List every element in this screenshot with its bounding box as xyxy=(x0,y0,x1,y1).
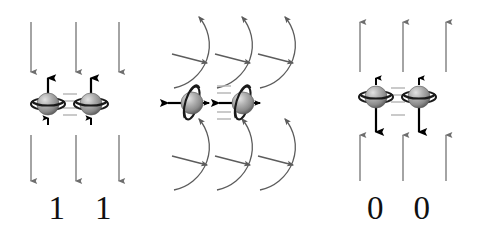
coupling-dashes xyxy=(391,88,405,115)
particle-spin-left-2 xyxy=(219,84,260,121)
particle-spin-down-2 xyxy=(402,78,436,132)
left-particles-layer xyxy=(0,0,160,237)
middle-particles-layer xyxy=(160,0,320,237)
spin-state-diagram: 1 1 xyxy=(0,0,477,237)
particle-spin-down-1 xyxy=(359,78,393,132)
particle-spin-up-1 xyxy=(31,78,65,125)
spin-down-panel: 0 0 xyxy=(320,0,477,237)
particle-spin-up-2 xyxy=(74,78,108,125)
right-particles-layer xyxy=(320,0,477,237)
spin-up-panel: 1 1 xyxy=(0,0,160,237)
particle-spin-left-1 xyxy=(168,84,209,121)
radiating-wave-panel xyxy=(160,0,320,237)
